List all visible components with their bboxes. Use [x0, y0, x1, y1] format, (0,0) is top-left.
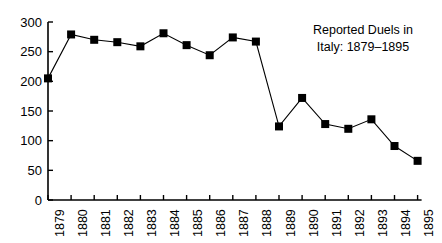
data-point-marker — [252, 38, 260, 46]
data-point-marker — [229, 33, 237, 41]
x-axis-tick-label: 1889 — [285, 209, 298, 237]
data-point-marker — [391, 142, 399, 150]
data-point-marker — [160, 29, 168, 37]
data-point-marker — [44, 74, 52, 82]
x-axis-tick-label: 1881 — [100, 209, 113, 237]
x-axis-tick-label: 1895 — [423, 209, 436, 237]
y-axis-tick-label: 150 — [8, 105, 42, 118]
data-point-marker — [298, 94, 306, 102]
x-axis-tick-label: 1885 — [192, 209, 205, 237]
chart-title-line-2: Italy: 1879–1895 — [296, 39, 430, 56]
data-point-marker — [136, 42, 144, 50]
y-axis-tick-label: 200 — [8, 75, 42, 88]
data-point-marker — [275, 122, 283, 130]
data-point-marker — [67, 30, 75, 38]
x-axis-tick-label: 1893 — [377, 209, 390, 237]
x-axis-tick-label: 1894 — [400, 209, 413, 237]
x-axis-tick-label: 1886 — [215, 209, 228, 237]
y-axis-tick-label: 250 — [8, 45, 42, 58]
y-axis-tick-label: 100 — [8, 134, 42, 147]
x-axis-tick-label: 1880 — [77, 209, 90, 237]
data-point-marker — [367, 115, 375, 123]
data-point-marker — [206, 51, 214, 59]
chart-title: Reported Duels in Italy: 1879–1895 — [296, 22, 430, 56]
x-axis-tick-label: 1882 — [123, 209, 136, 237]
data-point-marker — [414, 157, 422, 165]
x-axis-tick-label: 1884 — [169, 209, 182, 237]
x-axis-tick-label: 1891 — [331, 209, 344, 237]
y-axis-tick-label: 0 — [8, 194, 42, 207]
x-axis-tick-label: 1887 — [238, 209, 251, 237]
data-point-marker — [321, 120, 329, 128]
data-point-marker — [183, 41, 191, 49]
chart-title-line-1: Reported Duels in — [296, 22, 430, 39]
y-axis-tick-label: 300 — [8, 16, 42, 29]
x-axis-tick-label: 1890 — [308, 209, 321, 237]
x-axis-tick-label: 1892 — [354, 209, 367, 237]
data-point-marker — [113, 38, 121, 46]
x-axis-tick-label: 1888 — [261, 209, 274, 237]
chart-figure: 050100150200250300 187918801881188218831… — [0, 0, 442, 243]
y-axis-tick-label: 50 — [8, 164, 42, 177]
data-point-marker — [90, 36, 98, 44]
x-axis-tick-label: 1883 — [146, 209, 159, 237]
data-point-marker — [344, 125, 352, 133]
x-axis-tick-label: 1879 — [54, 209, 67, 237]
